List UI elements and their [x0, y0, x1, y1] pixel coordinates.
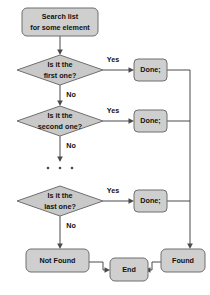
decision-first-label-line2: first one?	[44, 71, 77, 80]
arrow-second-no	[57, 157, 63, 163]
node-done-second[interactable]: Done;	[134, 110, 167, 132]
arrow-start-to-first	[57, 50, 63, 56]
decision-second-label-line2: second one?	[38, 122, 82, 131]
done-last-label: Done;	[140, 196, 160, 205]
start-label-line2: for some element	[30, 23, 90, 32]
found-label: Found	[172, 256, 194, 265]
node-done-first[interactable]: Done;	[134, 59, 167, 81]
arrow-last-yes	[129, 198, 135, 204]
edge-label-no-second: No	[66, 141, 76, 150]
arrow-first-yes	[129, 67, 135, 73]
edge-label-no-last: No	[66, 221, 76, 230]
edge-label-yes-last: Yes	[107, 186, 119, 195]
edge-label-yes-first: Yes	[107, 55, 119, 64]
ellipsis-dot-2	[59, 167, 62, 170]
start-label-line1: Search list	[42, 12, 79, 21]
edge-label-yes-second: Yes	[107, 106, 119, 115]
arrow-second-yes	[129, 118, 135, 124]
decision-last-label-line2: last one?	[44, 202, 76, 211]
arrow-first-no	[57, 101, 63, 107]
node-not-found[interactable]: Not Found	[26, 249, 89, 272]
node-start[interactable]: Search list for some element	[22, 8, 98, 36]
decision-first-label-line1: Is it the	[47, 60, 72, 69]
decision-second-label-line1: Is it the	[47, 111, 72, 120]
edge-label-no-first: No	[66, 90, 76, 99]
ellipsis-dot-1	[47, 167, 50, 170]
arrow-notfound-to-end	[105, 267, 111, 273]
flowchart-canvas: Yes No Yes No Yes No Search list for som…	[0, 0, 210, 295]
done-first-label: Done;	[140, 65, 160, 74]
node-done-last[interactable]: Done;	[134, 190, 167, 212]
decision-last-label-line1: Is it the	[47, 191, 72, 200]
node-decision-first[interactable]: Is it the first one?	[17, 55, 103, 85]
node-decision-last[interactable]: Is it the last one?	[17, 186, 103, 216]
arrow-bus-to-found	[187, 244, 193, 250]
ellipsis-icon	[47, 167, 74, 170]
end-label: End	[122, 265, 136, 274]
not-found-label: Not Found	[40, 256, 76, 265]
done-second-label: Done;	[140, 116, 160, 125]
flowchart-svg: Yes No Yes No Yes No Search list for som…	[0, 0, 210, 295]
ellipsis-dot-3	[71, 167, 74, 170]
node-decision-second[interactable]: Is it the second one?	[17, 106, 103, 136]
node-found[interactable]: Found	[161, 249, 205, 272]
node-end[interactable]: End	[110, 258, 148, 281]
arrow-last-no	[57, 244, 63, 250]
